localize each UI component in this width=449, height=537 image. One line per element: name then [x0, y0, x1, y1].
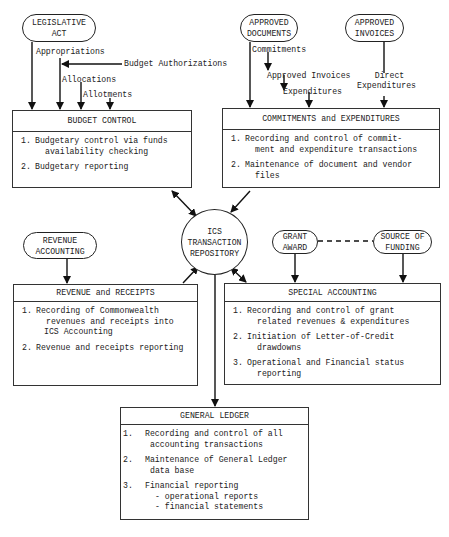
node-label: FUNDING — [374, 242, 431, 253]
approved-documents-node: APPROVED DOCUMENTS — [240, 14, 298, 42]
list-item: 3.Financial reporting- operational repor… — [123, 481, 302, 513]
item-number: 3. — [123, 481, 145, 513]
item-text: Budgetary reporting — [35, 162, 128, 171]
node-label: TRANSACTION — [182, 237, 247, 248]
item-number: 2. — [231, 160, 245, 181]
item-text: - operational reports — [145, 492, 302, 503]
item-text: Recording and control of commit- — [245, 134, 402, 143]
item-number: 1. — [231, 134, 245, 155]
list-item: 2.Revenue and receipts reporting — [22, 343, 191, 354]
node-label: GRANT — [273, 231, 317, 242]
item-text: Financial reporting — [145, 481, 238, 490]
item-text: data base — [145, 466, 302, 477]
label-line: Direct — [363, 71, 416, 81]
expenditures-label: Expenditures — [283, 87, 342, 97]
item-text: Maintenance of General Ledger — [145, 455, 288, 464]
item-text: files — [245, 171, 433, 182]
item-text: Revenue and receipts reporting — [36, 343, 183, 352]
box-title: SPECIAL ACCOUNTING — [225, 284, 440, 302]
legislative-act-node: LEGISLATIVE ACT — [22, 14, 96, 42]
item-text: related revenues & expenditures — [247, 317, 434, 328]
box-title: BUDGET CONTROL — [13, 111, 191, 132]
item-text: Recording and control of grant — [247, 306, 394, 315]
item-number: 3. — [233, 358, 247, 379]
label-line: Expenditures — [357, 81, 416, 91]
item-number: 2. — [21, 162, 35, 173]
box-title: REVENUE and RECEIPTS — [14, 285, 197, 302]
appropriations-label: Appropriations — [36, 47, 105, 57]
item-number: 2. — [22, 343, 36, 354]
node-label: DOCUMENTS — [241, 28, 297, 39]
list-item: 1.Recording of Commonwealthrevenues and … — [22, 306, 191, 338]
item-text: Operational and Financial status — [247, 358, 404, 367]
node-label: ACCOUNTING — [24, 246, 96, 257]
revenue-receipts-box: REVENUE and RECEIPTS 1.Recording of Comm… — [13, 284, 198, 386]
item-text: ment and expenditure transactions — [245, 145, 433, 156]
item-text: Budgetary control via funds — [35, 136, 168, 145]
node-label: REVENUE — [24, 235, 96, 246]
grant-award-node: GRANT AWARD — [272, 230, 318, 254]
ics-transaction-repository: ICS TRANSACTION REPOSITORY — [181, 209, 248, 275]
node-label: INVOICES — [346, 28, 403, 39]
item-number: 1. — [22, 306, 36, 338]
list-item: 2.Maintenance of General Ledgerdata base — [123, 455, 302, 476]
node-label: SOURCE OF — [374, 231, 431, 242]
list-item: 1.Recording and control of grantrelated … — [233, 306, 434, 327]
item-number: 1. — [123, 429, 145, 450]
node-label: AWARD — [273, 242, 317, 253]
list-item: 2.Budgetary reporting — [21, 162, 185, 173]
item-text: ICS Accounting — [36, 327, 191, 338]
item-text: Initiation of Letter-of-Credit — [247, 332, 394, 341]
item-text: Maintenance of document and vendor — [245, 160, 412, 169]
commitments-expenditures-box: COMMITMENTS and EXPENDITURES 1.Recording… — [222, 108, 440, 188]
node-label: ICS — [182, 226, 247, 237]
item-text: drawdowns — [247, 343, 434, 354]
box-title: COMMITMENTS and EXPENDITURES — [223, 109, 439, 130]
approved-invoices-label: Approved Invoices — [267, 71, 351, 81]
node-label: LEGISLATIVE — [23, 17, 95, 28]
list-item: 1.Recording and control of allaccounting… — [123, 429, 302, 450]
item-text: accounting transactions — [145, 440, 302, 451]
item-number: 1. — [233, 306, 247, 327]
commitments-label: Commitments — [252, 45, 306, 55]
item-text: availability checking — [35, 147, 185, 158]
budget-authorizations-label: Budget Authorizations — [124, 59, 227, 69]
node-label: REPOSITORY — [182, 248, 247, 259]
item-number: 2. — [123, 455, 145, 476]
special-accounting-box: SPECIAL ACCOUNTING 1.Recording and contr… — [224, 283, 441, 385]
list-item: 2.Initiation of Letter-of-Creditdrawdown… — [233, 332, 434, 353]
item-text: Recording of Commonwealth — [36, 306, 159, 315]
list-item: 1.Recording and control of commit-ment a… — [231, 134, 433, 155]
node-label: APPROVED — [241, 17, 297, 28]
allotments-label: Allotments — [83, 90, 132, 100]
item-text: - financial statements — [145, 502, 302, 513]
list-item: 3.Operational and Financial statusreport… — [233, 358, 434, 379]
general-ledger-box: GENERAL LEDGER 1.Recording and control o… — [120, 407, 309, 520]
box-title: GENERAL LEDGER — [121, 408, 308, 425]
list-item: 1.Budgetary control via fundsavailabilit… — [21, 136, 185, 157]
item-text: reporting — [247, 369, 434, 380]
source-of-funding-node: SOURCE OF FUNDING — [373, 230, 432, 254]
direct-expenditures-label: Direct Expenditures — [363, 71, 416, 91]
item-text: Recording and control of all — [145, 429, 283, 438]
item-number: 2. — [233, 332, 247, 353]
node-label: ACT — [23, 28, 95, 39]
budget-control-box: BUDGET CONTROL 1.Budgetary control via f… — [12, 110, 192, 188]
revenue-accounting-node: REVENUE ACCOUNTING — [23, 232, 97, 259]
list-item: 2.Maintenance of document and vendorfile… — [231, 160, 433, 181]
allocations-label: Allocations — [62, 75, 116, 85]
approved-invoices-node: APPROVED INVOICES — [345, 14, 404, 42]
item-text: revenues and receipts into — [36, 317, 191, 328]
node-label: APPROVED — [346, 17, 403, 28]
item-number: 1. — [21, 136, 35, 157]
